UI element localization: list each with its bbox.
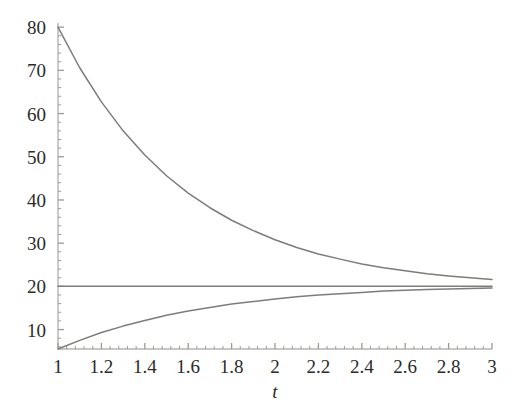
- x-axis-label: t: [272, 382, 277, 401]
- y-tick-label: 60: [0, 104, 46, 123]
- x-tick-label: 1.8: [220, 357, 244, 376]
- x-tick-label: 1: [53, 357, 63, 376]
- x-tick-label: 3: [487, 357, 497, 376]
- y-tick-label: 80: [0, 18, 46, 37]
- plot-canvas: [0, 0, 514, 410]
- x-tick-label: 2.8: [437, 357, 461, 376]
- y-tick-label: 70: [0, 61, 46, 80]
- x-tick-label: 1.2: [90, 357, 114, 376]
- y-tick-label: 20: [0, 277, 46, 296]
- x-tick-label: 2.6: [393, 357, 417, 376]
- x-tick-label: 1.4: [133, 357, 157, 376]
- x-tick-label: 2.2: [307, 357, 331, 376]
- x-tick-label: 2.4: [350, 357, 374, 376]
- x-tick-label: 1.6: [176, 357, 200, 376]
- y-tick-label: 10: [0, 320, 46, 339]
- series-curve: [58, 288, 492, 349]
- y-tick-label: 40: [0, 190, 46, 209]
- series-curve: [58, 27, 492, 279]
- y-tick-label: 50: [0, 147, 46, 166]
- x-tick-label: 2: [270, 357, 280, 376]
- chart-figure: 1020304050607080 11.21.41.61.822.22.42.6…: [0, 0, 514, 410]
- y-tick-label: 30: [0, 234, 46, 253]
